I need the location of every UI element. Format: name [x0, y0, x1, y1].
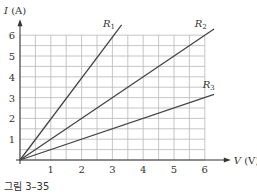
- x-axis-label: V (V): [234, 155, 257, 166]
- figure-caption: 그림 3–35: [4, 178, 49, 193]
- label-r2: R2: [194, 18, 207, 31]
- iv-chart: 123456123456I (A)V (V)R1R2R3: [0, 0, 257, 180]
- line-r2: [20, 29, 214, 160]
- x-tick-label: 1: [48, 164, 54, 175]
- x-tick-label: 4: [140, 164, 146, 175]
- axes: [16, 19, 231, 164]
- line-r3: [20, 94, 214, 160]
- x-tick-label: 5: [171, 164, 177, 175]
- y-tick-label: 3: [9, 93, 15, 104]
- y-tick-label: 2: [9, 113, 15, 124]
- x-tick-label: 6: [202, 164, 208, 175]
- y-tick-label: 6: [9, 30, 15, 41]
- y-axis-label: I (A): [3, 5, 26, 16]
- resistor-lines: [20, 25, 214, 160]
- y-tick-label: 5: [9, 51, 15, 62]
- y-axis-arrow-icon: [18, 19, 23, 26]
- x-tick-label: 3: [109, 164, 115, 175]
- x-tick-label: 2: [78, 164, 84, 175]
- label-r1: R1: [102, 18, 115, 31]
- y-tick-label: 4: [9, 72, 15, 83]
- label-r3: R3: [202, 79, 215, 92]
- y-tick-label: 1: [9, 134, 15, 145]
- x-axis-arrow-icon: [224, 158, 231, 163]
